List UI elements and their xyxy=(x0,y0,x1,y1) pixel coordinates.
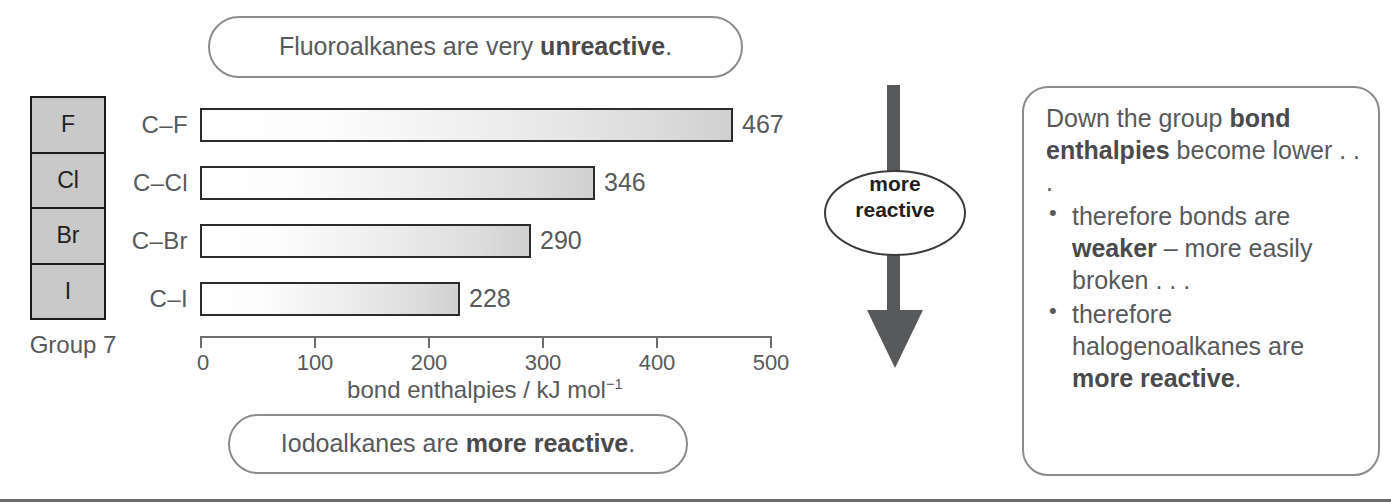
bar-row-cf: C–F 467 xyxy=(0,108,820,142)
bar-value-ci: 228 xyxy=(469,284,511,313)
x-tick-300 xyxy=(542,336,544,348)
bar-track-ci xyxy=(200,282,460,316)
bar-row-ci: C–I 228 xyxy=(0,282,820,316)
bar-label-cf: C–F xyxy=(120,111,188,139)
bar-track-cbr xyxy=(200,224,531,258)
bullet-2-bold: more reactive xyxy=(1072,364,1235,392)
bar-track-cf xyxy=(200,108,733,142)
explanation-lead-part1: Down the group xyxy=(1046,104,1229,132)
x-tick-100 xyxy=(314,336,316,348)
bar-fill-ccl xyxy=(200,166,595,200)
x-axis-line xyxy=(200,336,770,338)
bar-value-cf: 467 xyxy=(742,110,784,139)
bar-fill-cbr xyxy=(200,224,531,258)
explanation-bullet-list: therefore bonds are weaker – more easily… xyxy=(1046,200,1362,394)
bullet-1-part1: therefore bonds are xyxy=(1072,202,1290,230)
bar-track-ccl xyxy=(200,166,595,200)
explanation-bullet-1: therefore bonds are weaker – more easily… xyxy=(1046,200,1362,296)
x-tick-label-400: 400 xyxy=(639,350,676,376)
down-arrow-icon xyxy=(820,85,970,370)
bar-value-cbr: 290 xyxy=(540,226,582,255)
bar-value-ccl: 346 xyxy=(604,168,646,197)
bond-enthalpy-bar-chart: C–F 467 C–Cl 346 C–Br 290 C–I 228 0 100 … xyxy=(0,0,820,400)
bullet-2-part1: therefore halogenoalkanes are xyxy=(1072,300,1304,360)
explanation-lead: Down the group bond enthalpies become lo… xyxy=(1046,102,1362,198)
callout-bottom-prefix: Iodoalkanes are xyxy=(281,429,466,457)
callout-bottom: Iodoalkanes are more reactive. xyxy=(228,414,688,474)
x-axis-title-superscript: −1 xyxy=(606,376,623,392)
x-tick-200 xyxy=(428,336,430,348)
x-tick-label-200: 200 xyxy=(411,350,448,376)
x-tick-label-100: 100 xyxy=(297,350,334,376)
x-tick-label-0: 0 xyxy=(197,350,209,376)
bar-label-ci: C–I xyxy=(120,285,188,313)
x-axis-title-base: bond enthalpies / kJ mol xyxy=(347,376,606,403)
bar-fill-ci xyxy=(200,282,460,316)
x-axis-title: bond enthalpies / kJ mol−1 xyxy=(200,376,770,404)
bullet-1-bold: weaker xyxy=(1072,234,1157,262)
bullet-2-part2: . xyxy=(1235,364,1242,392)
callout-bottom-text: Iodoalkanes are more reactive. xyxy=(281,430,635,458)
bottom-divider xyxy=(0,499,1391,502)
x-tick-0 xyxy=(200,336,202,348)
explanation-box: Down the group bond enthalpies become lo… xyxy=(1022,86,1380,476)
x-tick-400 xyxy=(656,336,658,348)
bar-row-cbr: C–Br 290 xyxy=(0,224,820,258)
bar-row-ccl: C–Cl 346 xyxy=(0,166,820,200)
more-reactive-arrow-group: more reactive xyxy=(820,85,970,370)
callout-bottom-bold: more reactive xyxy=(466,429,629,457)
bar-label-cbr: C–Br xyxy=(120,227,188,255)
bar-label-ccl: C–Cl xyxy=(120,169,188,197)
callout-bottom-suffix: . xyxy=(628,429,635,457)
x-tick-label-300: 300 xyxy=(525,350,562,376)
bar-fill-cf xyxy=(200,108,733,142)
x-tick-500 xyxy=(770,336,772,348)
x-tick-label-500: 500 xyxy=(753,350,790,376)
explanation-bullet-2: therefore halogenoalkanes are more react… xyxy=(1046,298,1362,394)
